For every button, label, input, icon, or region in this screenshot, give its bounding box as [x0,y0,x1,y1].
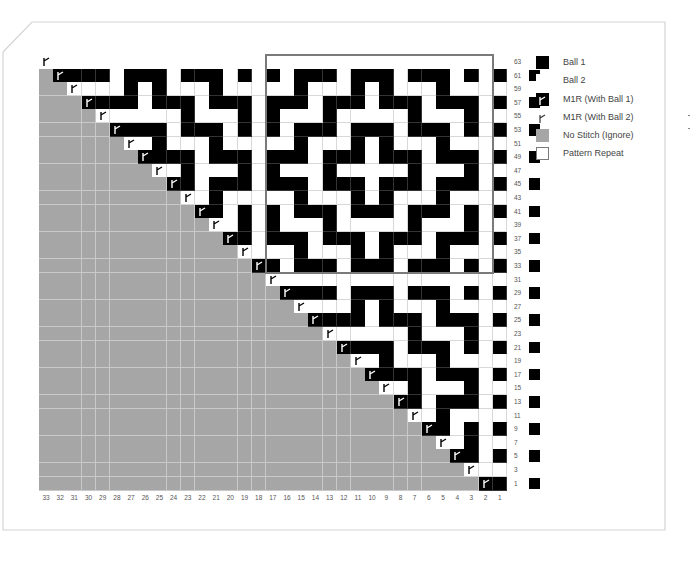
no-stitch-cell [351,368,366,382]
row-marker [529,342,540,354]
no-stitch-cell [195,313,210,327]
no-stitch-cell [39,463,54,477]
no-stitch-cell [124,354,139,368]
ball1-cell [493,96,508,110]
no-stitch-cell [337,463,352,477]
no-stitch-cell [39,109,54,123]
no-stitch-cell [266,354,281,368]
ball2-cell [479,273,494,287]
m1r-ball2-cell [464,463,479,477]
legend-item-no-stitch: No Stitch (Ignore) [536,129,666,143]
no-stitch-cell [167,436,182,450]
ball2-cell [181,137,196,151]
no-stitch-cell [223,395,238,409]
row-marker [529,369,540,381]
no-stitch-cell [351,477,366,491]
no-stitch-cell [238,449,253,463]
column-label: 20 [223,494,237,501]
ball2-cell [223,109,238,123]
ball1-cell [436,395,451,409]
ball2-cell [479,327,494,341]
no-stitch-cell [67,422,82,436]
ball2-cell [479,286,494,300]
ball1-cell [379,368,394,382]
ball2-cell [408,273,423,287]
no-stitch-cell [82,245,97,259]
no-stitch-cell [138,286,153,300]
row-label: 57 [514,99,521,106]
row-label: 7 [514,439,518,446]
legend-item-ball2: Ball 2 [536,74,666,88]
no-stitch-cell [238,259,253,273]
row-label: 27 [514,303,521,310]
no-stitch-cell [337,381,352,395]
ball2-cell [493,55,508,69]
ball1-cell [408,368,423,382]
ball2-cell [479,422,494,436]
legend-item-m1r-ball1: M1R (With Ball 1) [536,93,666,107]
m1r-ball1-cell [308,313,323,327]
no-stitch-cell [167,191,182,205]
m1r-ball2-cell [323,327,338,341]
ball2-swatch-icon [536,74,549,87]
no-stitch-cell [252,286,267,300]
no-stitch-cell [124,368,139,382]
no-stitch-cell [138,313,153,327]
ball1-cell [238,205,253,219]
row-label: 51 [514,140,521,147]
ball1-cell [308,286,323,300]
ball2-cell [223,55,238,69]
ball1-cell [464,341,479,355]
ball2-cell [464,273,479,287]
no-stitch-cell [238,354,253,368]
ball1-cell [209,82,224,96]
no-stitch-cell [39,232,54,246]
no-stitch-cell [209,381,224,395]
no-stitch-cell [124,286,139,300]
ball1-cell [238,109,253,123]
no-stitch-cell [394,436,409,450]
no-stitch-cell [67,109,82,123]
ball1-cell [138,69,153,83]
row-label: 41 [514,208,521,215]
ball2-cell [195,109,210,123]
ball1-cell [152,150,167,164]
no-stitch-cell [96,449,111,463]
no-stitch-cell [67,205,82,219]
no-stitch-cell [53,368,68,382]
no-stitch-cell [82,137,97,151]
no-stitch-cell [82,463,97,477]
no-stitch-cell [67,232,82,246]
no-stitch-cell [39,177,54,191]
no-stitch-cell [82,477,97,491]
no-stitch-cell [167,422,182,436]
no-stitch-cell [181,218,196,232]
ball2-cell [479,463,494,477]
ball2-cell [238,137,253,151]
no-stitch-cell [82,354,97,368]
no-stitch-cell [238,273,253,287]
no-stitch-cell [53,191,68,205]
no-stitch-cell [138,436,153,450]
ball1-cell [152,82,167,96]
no-stitch-cell [181,422,196,436]
ball1-cell [181,69,196,83]
no-stitch-cell [96,463,111,477]
no-stitch-cell [110,313,125,327]
no-stitch-cell [53,313,68,327]
ball2-cell [422,327,437,341]
ball1-cell [110,96,125,110]
ball2-cell [479,409,494,423]
no-stitch-cell [82,286,97,300]
no-stitch-cell [82,436,97,450]
ball1-cell [181,123,196,137]
no-stitch-cell [195,300,210,314]
no-stitch-cell [223,327,238,341]
no-stitch-cell [53,286,68,300]
ball2-cell [493,300,508,314]
ball2-cell [493,354,508,368]
ball1-cell [96,69,111,83]
no-stitch-cell [209,354,224,368]
no-stitch-cell [67,137,82,151]
ball1-cell [181,150,196,164]
